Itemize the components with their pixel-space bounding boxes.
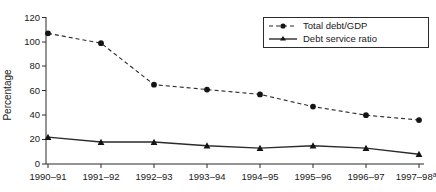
x-tick-label-last-text: 1997–98 — [396, 171, 433, 182]
x-tick-label: 1994–95 — [242, 171, 279, 182]
y-axis-ticks — [42, 18, 46, 165]
circle-marker-icon — [98, 40, 104, 46]
legend-label: Total debt/GDP — [303, 20, 367, 31]
circle-marker-icon — [416, 117, 422, 123]
x-tick-label: 1995–96 — [295, 171, 332, 182]
y-tick-label: 20 — [29, 133, 40, 144]
chart-legend: Total debt/GDP Debt service ratio — [264, 18, 429, 48]
x-tick-label: 1993–94 — [189, 171, 226, 182]
y-tick-label: 100 — [24, 36, 40, 47]
x-axis-tick-labels: 1990–91 1991–92 1992–93 1993–94 1994–95 … — [30, 171, 436, 182]
y-tick-label: 40 — [29, 109, 40, 120]
circle-marker-icon — [45, 30, 51, 36]
line-chart: Percentage 120 100 80 60 40 20 0 — [0, 0, 436, 192]
y-tick-label: 80 — [29, 60, 40, 71]
y-axis-label: Percentage — [2, 69, 13, 121]
series-debt-service-ratio — [45, 134, 423, 157]
circle-marker-icon — [310, 104, 316, 110]
chart-container: Percentage 120 100 80 60 40 20 0 — [0, 0, 436, 192]
circle-marker-icon — [363, 112, 369, 118]
y-tick-label: 60 — [29, 85, 40, 96]
circle-marker-icon — [151, 82, 157, 88]
series-layer — [45, 30, 423, 157]
series-line — [48, 137, 419, 154]
y-tick-label: 0 — [35, 158, 40, 169]
circle-marker-icon — [280, 23, 285, 28]
x-tick-label: 1991–92 — [83, 171, 120, 182]
circle-marker-icon — [257, 92, 263, 98]
x-tick-label-last: 1997–98a — [396, 171, 436, 182]
circle-marker-icon — [204, 87, 210, 93]
x-tick-label: 1996–97 — [348, 171, 385, 182]
x-tick-label: 1990–91 — [30, 171, 67, 182]
x-tick-label: 1992–93 — [136, 171, 173, 182]
x-axis-ticks — [48, 164, 419, 168]
y-tick-label: 120 — [24, 12, 40, 23]
legend-label: Debt service ratio — [303, 33, 377, 44]
y-axis-tick-labels: 120 100 80 60 40 20 0 — [24, 12, 40, 169]
